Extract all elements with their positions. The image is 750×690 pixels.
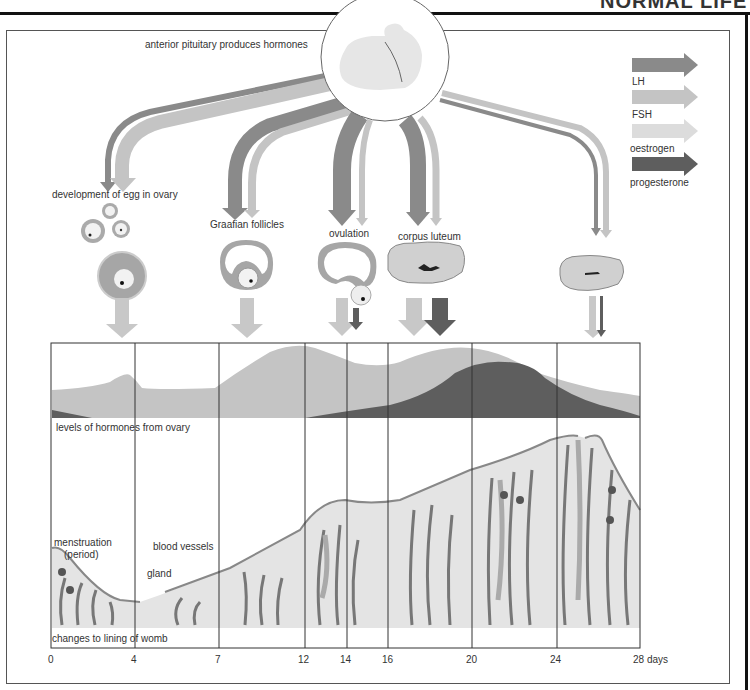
legend-lh: LH — [632, 76, 645, 87]
axis-tick-7: 7 — [215, 654, 221, 665]
womb-panel-label: changes to lining of womb — [52, 633, 168, 644]
corpus-luteum-label: corpus luteum — [398, 231, 461, 242]
axis-tick-12: 12 — [298, 654, 309, 665]
gland-label: gland — [147, 568, 171, 579]
axis-tick-20: 20 — [466, 654, 477, 665]
axis-tick-4: 4 — [131, 654, 137, 665]
axis-tick-14: 14 — [340, 654, 351, 665]
graafian-label: Graafian follicles — [210, 219, 284, 230]
header-title-fragment: NORMAL LIFE — [600, 0, 747, 13]
axis-tick-24: 24 — [550, 654, 561, 665]
womb-lining — [52, 435, 640, 628]
diagram-graphics — [0, 0, 750, 690]
axis-tick-16: 16 — [382, 654, 393, 665]
ovulation-label: ovulation — [329, 228, 369, 239]
legend-progesterone: progesterone — [630, 177, 689, 188]
axis-tick-28: 28 days — [633, 654, 668, 665]
axis-tick-0: 0 — [48, 654, 54, 665]
legend-fsh: FSH — [632, 109, 652, 120]
period-label: (period) — [64, 549, 98, 560]
hormone-panel-label: levels of hormones from ovary — [56, 422, 190, 433]
legend-oestrogen: oestrogen — [630, 143, 674, 154]
menstruation-label: menstruation — [54, 537, 112, 548]
pituitary-label: anterior pituitary produces hormones — [145, 39, 308, 50]
blood-vessels-label: blood vessels — [153, 541, 214, 552]
egg-development-label: development of egg in ovary — [52, 189, 178, 200]
hormone-level-chart — [52, 346, 640, 418]
